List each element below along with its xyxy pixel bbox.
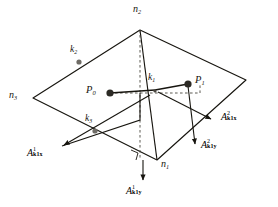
label-P1: P1 [195, 75, 205, 86]
edge-n2-n1 [140, 30, 157, 160]
geometry-diagram: n2 n3 n1 k2 k3 k1 P0 P1 A1k1x A1k1y A2k1… [0, 0, 278, 207]
label-k2: k2 [70, 45, 77, 56]
label-A1k1x: A1k1x [27, 147, 50, 159]
diagram-canvas [0, 0, 278, 207]
label-P0: P0 [86, 85, 96, 96]
label-n1: n1 [161, 159, 169, 170]
segment-k1-P1 [155, 84, 188, 90]
node-dot-P1 [184, 80, 191, 87]
label-A1k1y: A1k1y [126, 185, 149, 197]
vector-A2k1y-arrow [188, 86, 195, 144]
node-dot-k1 [153, 89, 156, 92]
label-n2: n2 [133, 4, 141, 15]
label-n3: n3 [9, 90, 17, 101]
right-angle-mark [131, 150, 138, 160]
label-k1: k1 [148, 73, 155, 84]
node-dot-k2 [76, 59, 81, 64]
label-k3: k3 [85, 114, 92, 125]
node-dot-k3 [92, 128, 97, 133]
label-A2k1y: A2k1y [201, 139, 224, 151]
node-dot-P0 [106, 89, 113, 96]
vector-A2k1x-arrow [158, 92, 211, 119]
local-frame-lines [62, 93, 140, 146]
label-A2k1x: A2k1x [221, 111, 244, 123]
